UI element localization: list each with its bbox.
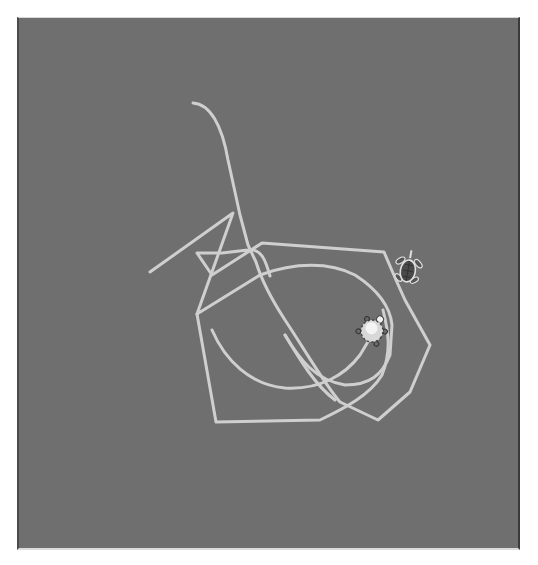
turtle-graphics-window bbox=[0, 0, 538, 565]
turtle-trail-path-a bbox=[193, 103, 430, 420]
turtle-trail-path-d bbox=[212, 330, 372, 388]
turtle-path-layer bbox=[0, 0, 538, 565]
